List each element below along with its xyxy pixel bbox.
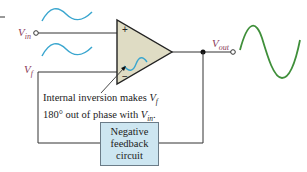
plus-sign: + [122, 25, 128, 35]
feedback-sine-wave [42, 44, 92, 56]
vf-label: Vf [24, 64, 33, 78]
feedback-label-line-1: Negative [111, 126, 149, 138]
vout-terminal [231, 50, 236, 55]
input-sine-wave [42, 9, 92, 21]
minus-sign: − [122, 72, 128, 82]
output-sine-wave [240, 26, 300, 78]
inversion-annotation: Internal inversion makes Vf 180° out of … [43, 91, 158, 125]
feedback-label-line-3: circuit [116, 150, 143, 162]
vin-terminal [34, 31, 39, 36]
vin-label: Vin [18, 27, 31, 41]
annotation-line-1: Internal inversion makes Vf [43, 91, 158, 108]
vout-label: Vout [212, 38, 229, 52]
feedback-label-line-2: feedback [111, 138, 149, 150]
negative-feedback-block: Negative feedback circuit [100, 122, 159, 166]
